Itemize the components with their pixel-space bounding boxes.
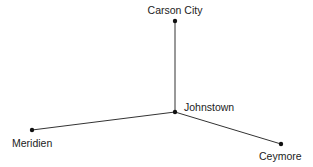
label-johnstown: Johnstown (184, 101, 234, 113)
label-meridien: Meridien (12, 137, 52, 149)
node-ceymore (279, 142, 283, 146)
edge-johnstown-ceymore (175, 112, 281, 144)
node-johnstown (173, 110, 177, 114)
node-carson-city (173, 19, 177, 23)
label-carson-city: Carson City (148, 4, 204, 16)
label-ceymore: Ceymore (259, 150, 302, 162)
node-meridien (30, 128, 34, 132)
edge-johnstown-meridien (32, 112, 175, 130)
city-network-diagram: Carson City Johnstown Meridien Ceymore (0, 0, 313, 167)
